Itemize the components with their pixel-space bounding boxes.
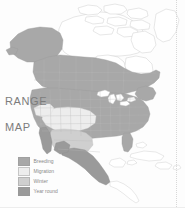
- legend-label-migration: Migration: [34, 168, 55, 175]
- caption-line-1: RANGE: [5, 95, 47, 108]
- legend-label-year-round: Year round: [34, 188, 58, 195]
- legend-item-year-round: Year round: [18, 187, 58, 197]
- legend-label-winter: Winter: [34, 178, 48, 185]
- bottom-strip: [0, 208, 185, 217]
- legend-item-breeding: Breeding: [18, 157, 58, 167]
- legend-label-breeding: Breeding: [34, 158, 54, 165]
- map-legend: Breeding Migration Winter Year round: [18, 157, 58, 197]
- range-map-figure: RANGE MAP Breeding Migration Winter Year…: [0, 0, 185, 217]
- caption-line-2: MAP: [5, 121, 47, 134]
- legend-item-migration: Migration: [18, 167, 58, 177]
- right-dotted-rule: [176, 0, 177, 207]
- bottom-divider: [0, 207, 185, 208]
- legend-swatch-winter: [18, 177, 30, 186]
- legend-swatch-migration: [18, 167, 30, 176]
- legend-swatch-year-round: [18, 187, 30, 196]
- legend-item-winter: Winter: [18, 177, 58, 187]
- range-map-caption: RANGE MAP: [5, 82, 47, 147]
- legend-swatch-breeding: [18, 157, 30, 166]
